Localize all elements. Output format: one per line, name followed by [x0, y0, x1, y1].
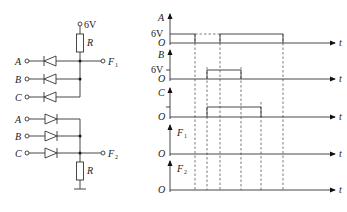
svg-text:B: B: [15, 74, 21, 85]
resistor-bottom: [77, 162, 84, 180]
svg-text:t: t: [339, 111, 342, 122]
svg-text:2: 2: [184, 169, 187, 175]
diode-row-b: B: [15, 74, 80, 85]
svg-text:O: O: [158, 148, 165, 159]
diode-row-c2: C: [15, 148, 80, 159]
diagram-canvas: 6V R F 1 A B C: [0, 0, 347, 212]
timing-row-f1: F 1 O t: [158, 125, 342, 159]
svg-text:O: O: [158, 111, 165, 122]
svg-text:O: O: [158, 73, 165, 84]
svg-text:A: A: [14, 56, 22, 67]
diode-row-a2: A: [14, 114, 80, 125]
svg-text:C: C: [15, 92, 22, 103]
svg-text:C: C: [158, 87, 165, 98]
svg-text:A: A: [14, 114, 22, 125]
circuit-top: 6V R F 1 A B C: [14, 19, 118, 103]
output-f2-label: F: [107, 148, 115, 159]
supply-terminal: [78, 22, 82, 26]
circuit-bottom: F 2 R A B C: [14, 114, 118, 189]
svg-text:2: 2: [115, 154, 118, 160]
svg-text:1: 1: [115, 62, 118, 68]
svg-text:F: F: [176, 163, 184, 174]
svg-text:t: t: [339, 148, 342, 159]
svg-text:B: B: [15, 131, 21, 142]
svg-text:t: t: [339, 184, 342, 195]
svg-text:O: O: [158, 184, 165, 195]
diode-row-a: A: [14, 56, 80, 67]
svg-text:1: 1: [184, 133, 187, 139]
svg-text:B: B: [158, 49, 164, 60]
diode-row-c: C: [15, 92, 80, 103]
supply-label: 6V: [84, 19, 97, 30]
resistor-top-label: R: [86, 37, 93, 48]
svg-text:t: t: [339, 37, 342, 48]
svg-text:C: C: [15, 148, 22, 159]
output-f1-terminal: [101, 59, 105, 63]
resistor-top: [77, 34, 84, 52]
svg-text:F: F: [176, 127, 184, 138]
svg-text:A: A: [157, 12, 165, 23]
timing-row-f2: F 2 O t: [158, 161, 342, 195]
svg-text:O: O: [158, 37, 165, 48]
timing-row-a: A 6V O t: [151, 12, 342, 48]
output-f2-terminal: [101, 151, 105, 155]
diode-row-b2: B: [15, 131, 80, 142]
resistor-bottom-label: R: [86, 165, 93, 176]
svg-text:t: t: [339, 73, 342, 84]
timing-diagram: A 6V O t B 6V O t C O t: [151, 12, 342, 195]
timing-row-b: B 6V O t: [151, 49, 342, 84]
output-f1-label: F: [107, 56, 115, 67]
timing-row-c: C O t: [158, 87, 342, 122]
